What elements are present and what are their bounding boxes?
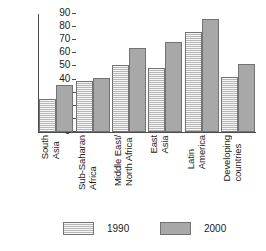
x-axis-label-line: East — [148, 135, 159, 154]
bar-1990-east-asia — [148, 68, 165, 132]
legend-swatch-1990 — [63, 222, 94, 235]
legend-item-2000[interactable]: 2000 — [160, 222, 226, 235]
bar-group — [185, 14, 219, 132]
x-axis-label-5: Developingcountries — [221, 135, 255, 215]
x-axis-label-line: countries — [232, 135, 243, 182]
x-axis-label-1: Sub-SaharanAfrica — [76, 135, 110, 215]
bar-group — [76, 14, 110, 132]
legend-swatch-2000 — [160, 222, 191, 235]
x-axis-label-4: LatinAmerica — [185, 135, 219, 215]
x-axis-category-labels: SouthAsiaSub-SaharanAfricaMiddle East/No… — [38, 133, 256, 215]
x-axis-label-line: America — [196, 135, 207, 169]
x-axis-label-line: Sub-Saharan — [76, 135, 87, 190]
x-axis-label-line: North Africa — [123, 135, 134, 186]
bar-2000-east-asia — [165, 42, 182, 132]
legend-label-2000: 2000 — [204, 223, 226, 235]
x-axis-label-3: EastAsia — [148, 135, 182, 215]
x-axis-label-line: Africa — [87, 135, 98, 190]
bar-group — [112, 14, 146, 132]
x-axis-label-0: SouthAsia — [39, 135, 73, 215]
x-axis-label-2: Middle East/North Africa — [112, 135, 146, 215]
bar-1990-developing-countries — [221, 77, 238, 132]
bar-2000-sub-saharan-africa — [93, 78, 110, 132]
plot-area: 0102030405060708090 — [38, 14, 256, 132]
chart-legend: 19902000 — [0, 222, 266, 246]
x-axis-label-line: Middle East/ — [112, 135, 123, 186]
legend-label-1990: 1990 — [107, 223, 129, 235]
bar-2000-middle-east-north-africa — [129, 48, 146, 132]
bar-1990-latin-america — [185, 32, 202, 132]
bar-2000-south-asia — [56, 85, 73, 132]
x-axis-label-line: Asia — [159, 135, 170, 154]
x-axis-label-line: South — [39, 135, 50, 159]
x-axis-label-line: Asia — [50, 135, 61, 159]
bar-1990-middle-east-north-africa — [112, 65, 129, 132]
bar-group — [148, 14, 182, 132]
bar-1990-south-asia — [39, 99, 56, 132]
bar-2000-developing-countries — [238, 64, 255, 132]
bar-1990-sub-saharan-africa — [76, 81, 93, 132]
x-axis-label-line: Latin — [185, 135, 196, 169]
bar-group — [221, 14, 255, 132]
x-axis-label-line: Developing — [221, 135, 232, 182]
bar-2000-latin-america — [202, 19, 219, 132]
bar-chart: 0102030405060708090 SouthAsiaSub-Saharan… — [0, 0, 266, 251]
legend-item-1990[interactable]: 1990 — [63, 222, 129, 235]
bar-group — [39, 14, 73, 132]
